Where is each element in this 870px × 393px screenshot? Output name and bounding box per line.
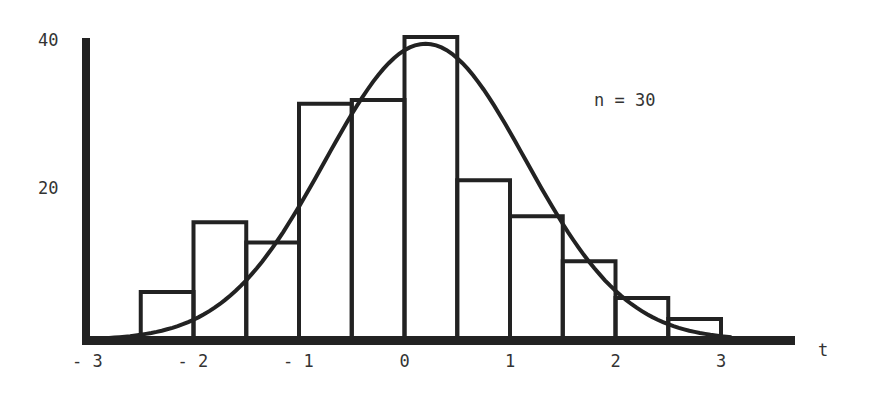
x-tick-label: 3 — [716, 351, 726, 371]
histogram-bar — [299, 104, 352, 340]
histogram-bar — [246, 243, 299, 341]
x-tick-label: 1 — [505, 351, 515, 371]
x-tick-label: - 1 — [283, 351, 314, 371]
y-axis — [82, 38, 90, 344]
normal-curve — [88, 44, 732, 339]
histogram-bar — [510, 216, 563, 340]
histogram-bars — [141, 37, 721, 340]
histogram-bar — [194, 222, 247, 340]
x-axis — [82, 336, 795, 345]
y-tick-label-40: 40 — [38, 30, 58, 50]
histogram-bar — [405, 37, 458, 340]
y-tick-label-20: 20 — [38, 178, 58, 198]
x-tick-label: - 3 — [72, 351, 103, 371]
histogram-chart: - 3- 2- 10123 40 20 t n = 30 — [0, 0, 870, 393]
x-tick-label: 0 — [400, 351, 410, 371]
x-tick-label: 2 — [611, 351, 621, 371]
x-axis-label: t — [818, 340, 828, 360]
histogram-bar — [457, 180, 510, 340]
histogram-bar — [352, 100, 405, 340]
x-tick-label: - 2 — [178, 351, 209, 371]
histogram-bar — [563, 261, 616, 340]
x-tick-labels: - 3- 2- 10123 — [72, 351, 726, 371]
sample-size-annotation: n = 30 — [594, 90, 655, 110]
